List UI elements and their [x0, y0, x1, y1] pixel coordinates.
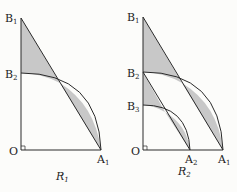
label-b1: B1: [5, 12, 18, 26]
caption-r1: R1: [55, 170, 69, 184]
label-b2: B2: [127, 67, 140, 81]
label-b2: B2: [5, 68, 18, 82]
left-figure: [21, 18, 101, 150]
label-o: O: [131, 145, 140, 158]
right-figure: [143, 17, 223, 150]
right-angle-marker: [143, 146, 147, 150]
line-b1-a1: [21, 18, 101, 150]
label-a1: A1: [217, 153, 230, 167]
label-o: O: [9, 145, 18, 158]
right-angle-marker: [21, 146, 25, 150]
label-b1: B1: [127, 11, 140, 25]
diagram-canvas: B1 B2 O A1 R1 B1 B2 B3 O A2 A1 R2: [0, 0, 237, 192]
label-b3: B3: [127, 100, 140, 114]
caption-r2: R2: [177, 165, 191, 179]
label-a1: A1: [96, 153, 109, 167]
